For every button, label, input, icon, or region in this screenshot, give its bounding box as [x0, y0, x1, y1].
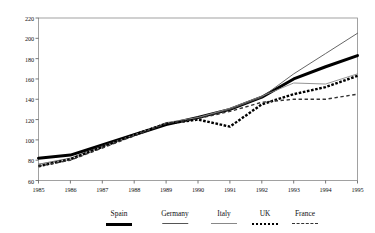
- legend-swatch-germany-icon: [162, 221, 188, 225]
- y-tick-label: 180: [8, 55, 34, 62]
- plot-frame: [39, 18, 358, 181]
- legend-swatch-spain-icon: [106, 221, 132, 225]
- x-tick-label: 1991: [224, 186, 236, 193]
- plot-area: [0, 0, 375, 233]
- y-tick-label: 100: [8, 136, 34, 143]
- x-tick-label: 1993: [288, 186, 300, 193]
- legend-swatch-uk-icon: [252, 221, 278, 225]
- legend-label: UK: [252, 209, 278, 218]
- legend-swatch-italy-icon: [211, 221, 237, 225]
- y-tick-label: 140: [8, 96, 34, 103]
- x-tick-label: 1986: [64, 186, 76, 193]
- legend-label: France: [292, 209, 318, 218]
- y-tick-label: 200: [8, 35, 34, 42]
- series-line-france: [39, 94, 358, 166]
- legend-item-italy[interactable]: Italy: [211, 209, 237, 225]
- y-tick-label: 120: [8, 116, 34, 123]
- y-tick-label: 60: [8, 177, 34, 184]
- x-tick-label: 1990: [192, 186, 204, 193]
- series-line-germany: [39, 33, 358, 164]
- axis-ticks: [36, 18, 358, 184]
- x-tick-label: 1987: [96, 186, 108, 193]
- legend-item-spain[interactable]: Spain: [106, 209, 132, 225]
- line-chart: 6080100120140160180200220 19851986198719…: [0, 0, 375, 233]
- legend-swatch-france-icon: [292, 221, 318, 225]
- legend-label: Spain: [106, 209, 132, 218]
- legend-label: Italy: [211, 209, 237, 218]
- legend-label: Germany: [161, 209, 189, 218]
- x-tick-label: 1994: [320, 186, 332, 193]
- x-tick-label: 1989: [160, 186, 172, 193]
- y-tick-label: 220: [8, 15, 34, 22]
- legend-item-uk[interactable]: UK: [252, 209, 278, 225]
- data-series-group: [39, 33, 358, 166]
- legend-item-germany[interactable]: Germany: [161, 209, 189, 225]
- y-tick-label: 80: [8, 157, 34, 164]
- legend-item-france[interactable]: France: [292, 209, 318, 225]
- series-line-uk: [39, 76, 358, 166]
- x-tick-label: 1988: [128, 186, 140, 193]
- x-tick-label: 1995: [352, 186, 364, 193]
- x-tick-label: 1985: [33, 186, 45, 193]
- chart-legend: SpainGermanyItalyUKFrance: [0, 209, 375, 233]
- x-tick-label: 1992: [256, 186, 268, 193]
- y-tick-label: 160: [8, 75, 34, 82]
- series-line-spain: [39, 56, 358, 159]
